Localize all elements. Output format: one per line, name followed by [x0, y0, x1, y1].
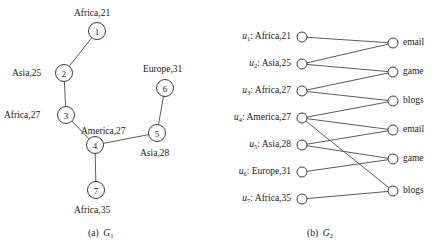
panel-b-edge-u4-v3: [307, 102, 388, 117]
panel-b-right-label-v1: email: [403, 38, 424, 48]
panel-a-node-attr-label-1: Africa,21: [74, 9, 110, 19]
panel-b-edge-u4-v6: [306, 121, 389, 188]
node-id-label-5: 5: [155, 129, 160, 139]
panel-b-right-node-v1[interactable]: [388, 38, 398, 48]
panel-b-edge-u5-v4: [307, 131, 388, 144]
panel-b-right-node-v6[interactable]: [388, 186, 398, 196]
panel-b-edge-u4-v4: [307, 119, 388, 130]
panel-b-right-label-v3: blogs: [403, 96, 424, 106]
figure-container: 1234567 Africa,21Asia,25Africa,27America…: [0, 0, 435, 248]
panel-b-left-label-u2: u2: Asia,25: [0, 59, 291, 69]
panel-a-node-attr-label-2: Asia,25: [12, 69, 41, 79]
panel-b-left-label-u4: u4: America,27: [0, 113, 291, 123]
panel-b-left-node-u4[interactable]: [297, 113, 307, 123]
panel-b-edge-u5-v5: [307, 146, 388, 158]
panel-b-edge-u3-v2: [307, 73, 388, 90]
panel-b-left-node-u3[interactable]: [297, 86, 307, 96]
panel-b-right-node-v4[interactable]: [388, 125, 398, 135]
panel-b-left-node-u2[interactable]: [297, 59, 307, 69]
panel-b-right-label-v4: email: [403, 125, 424, 135]
panel-b-left-node-u1[interactable]: [297, 32, 307, 42]
panel-b-left-node-u6[interactable]: [297, 167, 307, 177]
panel-b-right-label-v6: blogs: [403, 186, 424, 196]
panel-b-left-node-u5[interactable]: [297, 140, 307, 150]
panel-a-node-5[interactable]: 5: [149, 125, 166, 142]
panel-b-left-label-u3: u3: Africa,27: [0, 86, 291, 96]
panel-b-right-label-v2: game: [403, 67, 424, 77]
caption-panel-b: (b) G2: [307, 228, 333, 238]
panel-b-edge-u6-v5: [307, 160, 388, 172]
panel-b-right-node-v5[interactable]: [388, 154, 398, 164]
panel-b-edge-u1-v1: [307, 37, 388, 42]
panel-a-node-attr-label-7: Africa,35: [74, 206, 110, 216]
panel-b-right-label-v5: game: [403, 154, 424, 164]
panel-b-left-node-u7[interactable]: [297, 194, 307, 204]
panel-b-left-label-u6: u6: Europe,31: [0, 167, 291, 177]
node-id-label-2: 2: [62, 69, 67, 79]
panel-b-edge-u2-v2: [307, 64, 388, 71]
panel-b-edge-u7-v6: [307, 191, 388, 198]
caption-panel-a: (a) G1: [88, 228, 113, 238]
panel-b-left-label-u7: u7: Africa,35: [0, 194, 291, 204]
panel-a-node-attr-label-4: America,27: [81, 127, 126, 137]
panel-a-node-attr-label-5: Asia,28: [140, 149, 169, 159]
panel-b-edge-u2-v1: [307, 44, 388, 63]
panel-b-left-label-u1: u1: Africa,21: [0, 32, 291, 42]
panel-b-edge-u3-v3: [307, 92, 388, 101]
panel-b-right-node-v2[interactable]: [388, 67, 398, 77]
panel-b-right-node-v3[interactable]: [388, 96, 398, 106]
panel-b-left-label-u5: u5: Asia,28: [0, 140, 291, 150]
